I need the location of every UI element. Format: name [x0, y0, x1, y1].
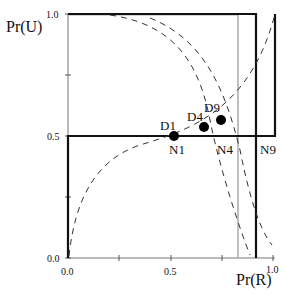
label-n9: N9 — [260, 142, 276, 157]
x-tick-0: 0.0 — [61, 266, 74, 277]
y-axis-label: Pr(U) — [6, 18, 42, 36]
strategy-diagram: Pr(U) Pr(R) 1.0 0.5 0.0 0.0 0.5 1.0 D1 D… — [0, 0, 286, 295]
label-n4: N4 — [217, 142, 233, 157]
label-n1: N1 — [169, 142, 185, 157]
point-d9 — [216, 115, 226, 125]
axis-ticks — [65, 14, 273, 261]
label-d1: D1 — [160, 118, 176, 133]
x-tick-05: 0.5 — [164, 266, 177, 277]
y-tick-1: 1.0 — [46, 9, 59, 20]
y-tick-0: 0.0 — [47, 253, 60, 264]
label-d4: D4 — [187, 109, 203, 124]
x-tick-1: 1.0 — [266, 264, 279, 275]
y-tick-05: 0.5 — [47, 131, 60, 142]
label-d9: D9 — [204, 100, 220, 115]
